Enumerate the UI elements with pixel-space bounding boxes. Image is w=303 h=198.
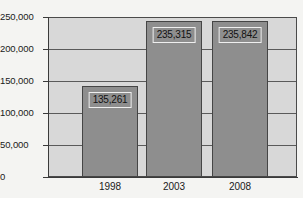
x-tick-label-1998: 1998 (82, 181, 138, 192)
bar-1998: 135,261 (82, 86, 138, 177)
bar-2003: 235,315 (146, 21, 202, 177)
x-tick-label-2008: 2008 (212, 181, 268, 192)
y-tick-mark-50000 (43, 145, 48, 146)
bar-value-label-2003: 235,315 (153, 27, 196, 43)
bar-value-label-1998: 135,261 (89, 92, 132, 108)
y-axis-line (48, 17, 49, 178)
bar-2008: 235,842 (212, 21, 268, 177)
x-axis-line (48, 177, 298, 178)
y-tick-mark-200000 (43, 49, 48, 50)
y-tick-mark-150000 (43, 81, 48, 82)
y-tick-mark-100000 (43, 113, 48, 114)
x-tick-label-2003: 2003 (146, 181, 202, 192)
y-tick-mark-250000 (43, 17, 48, 18)
bar-value-label-2008: 235,842 (219, 27, 262, 43)
bar-chart-figure: 250,000 200,000 150,000 100,000 50,000 0… (0, 0, 303, 198)
y-axis-tick-labels: 250,000 200,000 150,000 100,000 50,000 0 (0, 0, 41, 198)
